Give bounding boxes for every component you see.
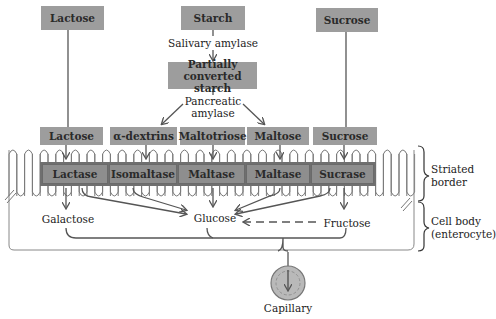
enzyme-isomaltase: Isomaltase	[109, 164, 177, 184]
fructose-label: Fructose	[322, 217, 372, 229]
salivary-amylase-label: Salivary amylase	[165, 37, 261, 49]
striated-border-label: Striated border	[431, 163, 474, 189]
to-maltose-arrow	[243, 104, 264, 124]
substrate-maltose: Maltose	[247, 127, 309, 145]
cell-line2: (enterocyte)	[431, 228, 496, 241]
enzyme-maltase-1: Maltase	[178, 164, 245, 184]
lactose-source-box: Lactose	[41, 6, 104, 30]
cell-body-brace	[418, 202, 429, 251]
substrate-sucrose: Sucrose	[313, 127, 377, 145]
enzyme-lactase: Lactase	[42, 164, 108, 184]
substrate-lactose: Lactose	[40, 127, 103, 145]
partial-starch-line1: Partially	[188, 58, 238, 70]
enzyme-sucrase: Sucrase	[311, 164, 374, 184]
cell-body-label: Cell body (enterocyte)	[431, 215, 496, 241]
partial-starch-line2: converted starch	[168, 70, 257, 94]
sucrose-source-box: Sucrose	[316, 8, 378, 32]
pancreatic-amylase-label: Pancreatic amylase	[180, 95, 246, 119]
glucose-label: Glucose	[190, 212, 240, 224]
cell-line1: Cell body	[431, 215, 496, 228]
enzyme-maltase-2: Maltase	[246, 164, 310, 184]
starch-box: Starch	[181, 6, 245, 30]
striated-line1: Striated	[431, 163, 474, 176]
galactose-label: Galactose	[38, 213, 98, 225]
capillary-label: Capillary	[258, 302, 318, 314]
striated-brace	[418, 146, 429, 201]
substrate-maltotriose: Maltotriose	[180, 127, 245, 145]
collector-bracket	[66, 228, 346, 238]
partial-starch-box: Partially converted starch	[168, 62, 257, 89]
pancreatic-line1: Pancreatic	[180, 95, 246, 107]
substrate-alpha-dextrins: α-dextrins	[110, 127, 177, 145]
striated-line2: border	[431, 176, 474, 189]
pancreatic-line2: amylase	[180, 107, 246, 119]
